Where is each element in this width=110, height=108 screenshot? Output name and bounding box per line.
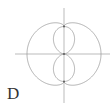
figure-label: D (7, 85, 19, 102)
intersection-point (63, 81, 65, 83)
intersection-point (63, 53, 65, 55)
intersection-point (63, 26, 65, 28)
